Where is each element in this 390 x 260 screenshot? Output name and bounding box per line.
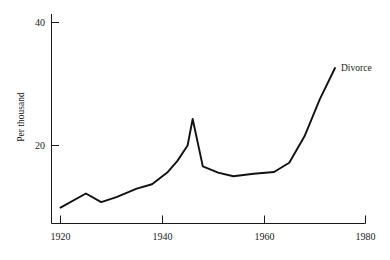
chart-container: 40 20 1920 1940 1960 1980 Per thousand D… bbox=[0, 0, 390, 260]
y-tick-label-20: 20 bbox=[35, 140, 45, 151]
y-tick-label-40: 40 bbox=[35, 17, 45, 28]
x-tick-label-1920: 1920 bbox=[51, 231, 71, 242]
x-tick-label-1960: 1960 bbox=[255, 231, 275, 242]
x-tick-label-1980: 1980 bbox=[356, 231, 376, 242]
divorce-rate-line-chart: 40 20 1920 1940 1960 1980 Per thousand D… bbox=[0, 0, 390, 260]
x-tick-label-1940: 1940 bbox=[153, 231, 173, 242]
series-label-divorce: Divorce bbox=[341, 63, 372, 73]
divorce-series-line bbox=[61, 68, 336, 208]
y-axis-title: Per thousand bbox=[16, 92, 26, 142]
